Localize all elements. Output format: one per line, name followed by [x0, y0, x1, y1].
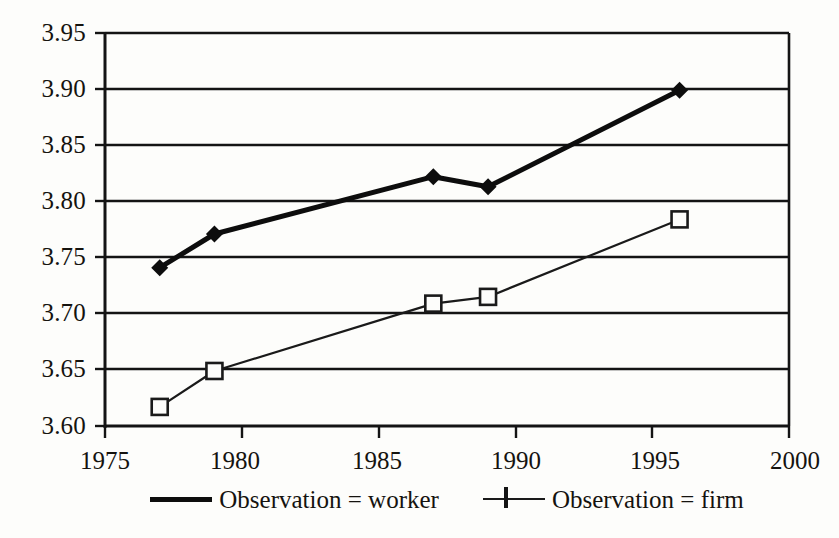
- data-point-diamond: [425, 168, 442, 185]
- y-tick-label: 3.90: [0, 76, 86, 101]
- data-point-square: [425, 296, 441, 312]
- x-tick-label: 2000: [750, 448, 839, 473]
- legend-key-worker: [150, 488, 212, 510]
- data-point-square: [672, 211, 688, 227]
- legend-line-thin: [483, 498, 545, 500]
- x-tick-label: 1985: [332, 448, 422, 473]
- data-series-layer: [151, 82, 688, 415]
- x-tick-label: 1995: [610, 448, 700, 473]
- data-point-diamond: [480, 178, 497, 195]
- x-tick-label: 1990: [471, 448, 561, 473]
- y-tick-label: 3.80: [0, 188, 86, 213]
- legend-label-worker: Observation = worker: [219, 487, 439, 512]
- line-chart-figure: 3.95 3.90 3.85 3.80 3.75 3.70 3.65 3.60 …: [0, 0, 839, 538]
- y-tick-label: 3.85: [0, 132, 86, 157]
- data-point-square: [480, 289, 496, 305]
- data-point-square: [152, 399, 168, 415]
- series-worker: [151, 82, 688, 276]
- legend-entry-worker[interactable]: Observation = worker: [150, 487, 439, 512]
- legend-entry-firm[interactable]: Observation = firm: [483, 487, 744, 512]
- data-point-diamond: [671, 82, 688, 99]
- legend-label-firm: Observation = firm: [552, 487, 744, 512]
- x-axis-ticks: [105, 426, 789, 438]
- x-tick-label: 1980: [190, 448, 280, 473]
- series-line: [160, 90, 680, 267]
- open-square-icon: [504, 489, 508, 507]
- y-tick-label: 3.95: [0, 20, 86, 45]
- x-tick-label: 1975: [60, 448, 150, 473]
- legend-line-thick: [150, 497, 212, 502]
- y-tick-label: 3.70: [0, 300, 86, 325]
- chart-legend: Observation = worker Observation = firm: [105, 478, 789, 520]
- legend-key-firm: [483, 488, 545, 510]
- y-tick-label: 3.60: [0, 413, 86, 438]
- data-point-square: [206, 363, 222, 379]
- y-tick-label: 3.65: [0, 356, 86, 381]
- y-tick-label: 3.75: [0, 244, 86, 269]
